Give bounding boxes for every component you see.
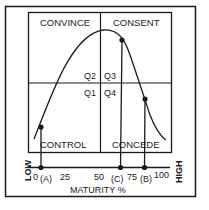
- label-q4: Q4: [104, 88, 116, 98]
- label-concede: CONCEDE: [112, 139, 160, 150]
- curve-point-c: [119, 37, 124, 42]
- axis-point-a: [38, 165, 43, 170]
- curve-point-a: [38, 124, 43, 129]
- axis-point-b: [142, 165, 147, 170]
- marker-b: (B): [140, 174, 152, 184]
- label-q1: Q1: [84, 88, 96, 98]
- drop-line-b: [145, 99, 146, 167]
- label-q3: Q3: [104, 71, 116, 81]
- curve-point-b: [142, 96, 147, 101]
- tick-25: 25: [60, 172, 70, 182]
- label-consent: CONSENT: [113, 17, 160, 28]
- label-control: CONTROL: [40, 139, 86, 150]
- marker-c: (C): [111, 174, 124, 184]
- low-label: LOW: [23, 160, 33, 181]
- tick-75: 75: [127, 172, 137, 182]
- marker-a: (A): [40, 174, 52, 184]
- tick-100: 100: [154, 170, 169, 180]
- x-axis-title: MATURITY %: [70, 185, 126, 195]
- tick-0: 0: [33, 172, 38, 182]
- tick-50: 50: [94, 172, 104, 182]
- label-q2: Q2: [84, 71, 96, 81]
- axis-point-c: [118, 165, 123, 170]
- label-convince: CONVINCE: [40, 17, 90, 28]
- high-label: HIGH: [174, 161, 184, 184]
- situational-leadership-diagram: CONVINCE CONSENT CONTROL CONCEDE Q2 Q3 Q…: [0, 0, 209, 210]
